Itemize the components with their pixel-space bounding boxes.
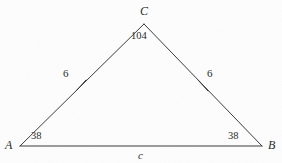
angle-label-c: 104 (131, 31, 147, 42)
vertex-label-c: C (140, 5, 148, 17)
vertex-label-b: B (268, 139, 275, 151)
triangle-diagram: A B C 38 38 104 6 6 c (0, 0, 282, 163)
side-label-bc: 6 (207, 68, 213, 79)
tick-mark-side-ac (76, 80, 86, 91)
vertex-label-a: A (5, 139, 12, 151)
angle-label-a: 38 (31, 131, 42, 142)
triangle-drawing (0, 0, 282, 163)
side-label-ac: 6 (63, 68, 69, 79)
tick-mark-side-bc (198, 80, 208, 91)
angle-label-b: 38 (228, 131, 239, 142)
side-label-ab: c (138, 150, 143, 161)
